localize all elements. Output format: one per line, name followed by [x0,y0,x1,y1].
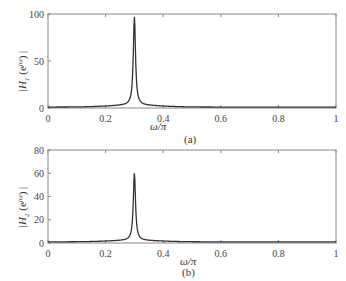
panel-b-frame [48,150,336,243]
x-tick-label: 0.6 [215,248,228,259]
x-tick-label: 0.2 [99,113,112,124]
x-tick-label: 0.8 [272,113,285,124]
svg-text:|H1 (ejω) |: |H1 (ejω) | [16,51,31,92]
x-tick-label: 0.2 [99,248,112,259]
panel-b-ylabel: |H2 (ejω) | [16,187,31,228]
y-tick-label: 50 [34,56,44,67]
panel-b: 020406080 00.20.40.60.81 ω/π (b) |H2 (ej… [16,145,339,280]
y-tick-label: 0 [39,238,44,249]
y-tick-label: 100 [29,9,44,20]
x-tick-label: 0.8 [272,248,285,259]
panel-a-frame [48,14,336,108]
panel-a-ylabel: |H1 (ejω) | [16,51,31,92]
x-tick-label: 0.6 [215,113,228,124]
y-tick-label: 80 [34,145,44,156]
x-tick-label: 1 [334,248,339,259]
x-tick-label: 0.4 [157,248,170,259]
panel-a-curve [48,17,336,107]
x-tick-label: 1 [334,113,339,124]
x-tick-label: 0 [46,248,51,259]
panel-a-xlabel: ω/π [150,120,167,132]
svg-text:|H2 (ejω) |: |H2 (ejω) | [16,187,31,228]
figure: 050100 00.20.40.60.81 ω/π (a) |H1 (ejω) … [0,0,346,281]
panel-b-curve [48,173,336,242]
panel-a: 050100 00.20.40.60.81 ω/π (a) |H1 (ejω) … [16,9,339,147]
y-tick-label: 20 [34,214,44,225]
y-tick-label: 40 [34,191,44,202]
panel-b-caption: (b) [182,266,195,279]
y-tick-label: 60 [34,168,44,179]
y-tick-label: 0 [39,103,44,114]
panel-a-caption: (a) [184,133,197,146]
x-tick-label: 0 [46,113,51,124]
